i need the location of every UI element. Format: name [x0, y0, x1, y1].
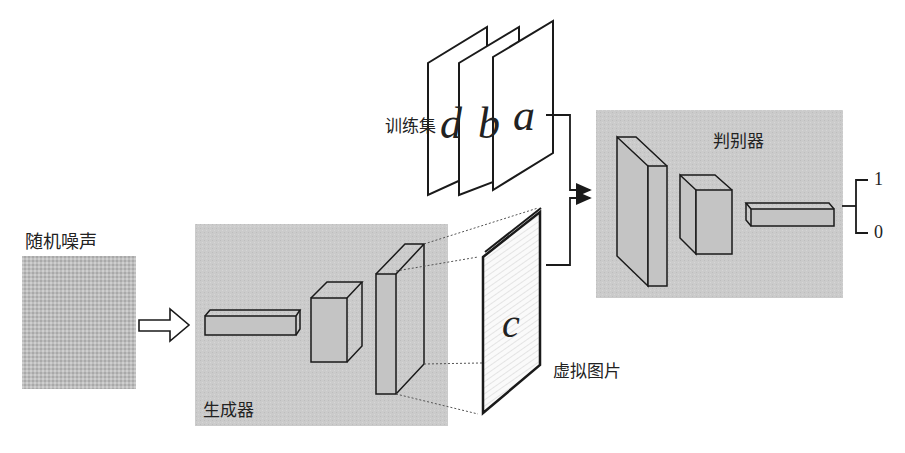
training-page-letter-a: a	[513, 90, 535, 141]
fake-image-letter: c	[502, 300, 520, 347]
output-real-label: 1	[874, 169, 883, 190]
gan-diagram	[0, 0, 905, 453]
training-page-letter-b: b	[478, 98, 500, 149]
output-fake-label: 0	[874, 222, 883, 243]
noise-square	[22, 256, 136, 389]
discriminator-label: 判别器	[713, 127, 764, 152]
fake-image-label: 虚拟图片	[553, 357, 621, 382]
training-page-letter-d: d	[440, 98, 462, 149]
noise-label: 随机噪声	[25, 227, 97, 253]
hollow-arrow-icon	[139, 309, 189, 341]
training-set-label: 训练集	[385, 112, 436, 137]
generator-label: 生成器	[203, 396, 254, 421]
output-bracket	[842, 180, 868, 233]
